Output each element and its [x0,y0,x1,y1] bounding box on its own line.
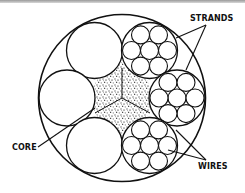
strand-top-left [67,23,123,79]
strand-bottom-left [67,118,123,174]
strand-left [39,70,95,126]
strand-right [149,70,205,126]
strand-top-right [122,23,178,79]
strand-bottom-right [122,118,178,174]
wires-label: WIRES [198,163,228,171]
strands-label: STRANDS [190,15,233,23]
core-label: CORE [12,144,37,152]
